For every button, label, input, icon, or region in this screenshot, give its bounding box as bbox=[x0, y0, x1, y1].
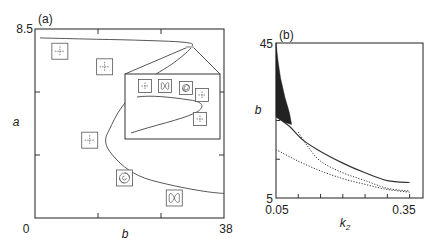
saddle-portrait-icon bbox=[196, 89, 209, 102]
panel-b-ylabel: b bbox=[255, 103, 262, 117]
saddle-portrait-icon bbox=[52, 43, 68, 59]
limit-cycle-portrait-icon bbox=[166, 190, 182, 206]
panel-a-label: (a) bbox=[38, 12, 53, 26]
saddle-portrait-icon bbox=[97, 59, 113, 75]
saddle-portrait-icon bbox=[194, 113, 207, 126]
panel-b: (b) 45 5 0.05 0.35 k2 b bbox=[255, 28, 423, 232]
panel-b-ymax-label: 45 bbox=[260, 37, 274, 51]
panel-a-origin-label: 0 bbox=[23, 222, 30, 236]
panel-b-dotted-curve bbox=[276, 150, 410, 193]
saddle-portrait-icon bbox=[82, 132, 98, 148]
portrait-frame bbox=[117, 170, 133, 186]
panel-b-xlabel-sub: 2 bbox=[345, 223, 351, 232]
spiral-portrait-icon bbox=[117, 170, 133, 186]
panel-a-xmax-label: 38 bbox=[219, 222, 233, 236]
panel-b-xlabel: k2 bbox=[340, 216, 351, 232]
panel-b-label: (b) bbox=[279, 28, 294, 42]
panel-b-xmax-label: 0.35 bbox=[392, 203, 416, 217]
limit-cycle-portrait-icon bbox=[159, 80, 172, 93]
inset-connector-left bbox=[125, 47, 188, 74]
panel-b-xmin-label: 0.05 bbox=[265, 203, 289, 217]
panel-a: (a) 8.5 0 38 b a bbox=[13, 12, 233, 241]
zoom-region-marker bbox=[186, 46, 194, 48]
inset-connector-right bbox=[193, 47, 220, 74]
panel-a-xlabel: b bbox=[122, 227, 129, 241]
panel-a-ylabel: a bbox=[13, 115, 20, 129]
spiral-portrait-icon bbox=[180, 82, 193, 95]
panel-b-series bbox=[276, 43, 410, 192]
saddle-portrait-icon bbox=[139, 80, 152, 93]
panel-a-ymax-label: 8.5 bbox=[16, 22, 33, 36]
panel-b-frame bbox=[276, 43, 423, 198]
figure: (a) 8.5 0 38 b a (b) 45 5 0.05 0.35 k2 b bbox=[0, 0, 434, 247]
panel-a-inset bbox=[125, 46, 220, 139]
panel-b-chaotic-region bbox=[276, 43, 292, 124]
portrait-frame bbox=[180, 82, 193, 95]
